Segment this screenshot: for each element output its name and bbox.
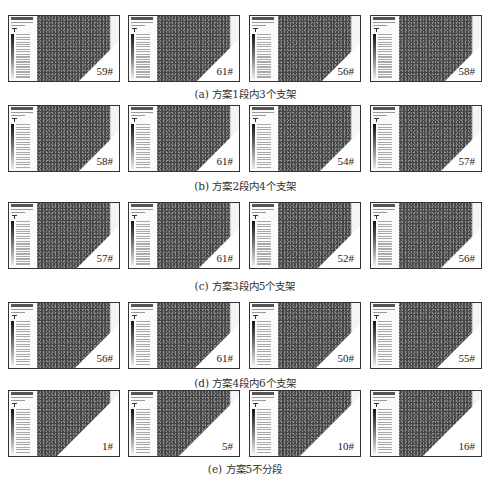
legend — [9, 303, 38, 368]
support-label: 56# — [97, 352, 114, 364]
panel-e-3: 10# — [249, 390, 361, 457]
legend — [129, 106, 158, 171]
support-label: 56# — [338, 65, 355, 77]
legend — [371, 303, 400, 368]
row-b: 58# 61# 54# 57# — [0, 105, 490, 173]
legend — [129, 391, 158, 456]
support-label: 57# — [459, 155, 476, 167]
caption-e: (e) 方案5不分段 — [0, 461, 490, 476]
legend — [371, 391, 400, 456]
figure: 59# 61# 56# 58# (a) 方案1段内3个支架 — [0, 0, 490, 482]
row-c: 57# 61# 52# 56# — [0, 202, 490, 270]
support-label: 58# — [459, 65, 476, 77]
support-label: 59# — [97, 65, 114, 77]
support-label: 52# — [338, 252, 355, 264]
support-label: 56# — [459, 252, 476, 264]
support-label: 61# — [217, 65, 234, 77]
support-label: 61# — [217, 155, 234, 167]
row-d: 56# 61# 50# 55# — [0, 302, 490, 370]
panel-b-3: 54# — [249, 105, 361, 172]
legend — [250, 16, 279, 81]
panel-d-3: 50# — [249, 302, 361, 369]
panel-a-2: 61# — [128, 15, 240, 82]
legend — [371, 16, 400, 81]
support-label: 58# — [97, 155, 114, 167]
support-label: 55# — [459, 352, 476, 364]
panel-c-2: 61# — [128, 202, 240, 269]
support-label: 61# — [217, 252, 234, 264]
support-label: 57# — [97, 252, 114, 264]
support-label: 54# — [338, 155, 355, 167]
panel-d-1: 56# — [8, 302, 120, 369]
panel-c-4: 56# — [370, 202, 482, 269]
legend — [9, 16, 38, 81]
legend — [9, 203, 38, 268]
panel-d-4: 55# — [370, 302, 482, 369]
panel-e-1: 1# — [8, 390, 120, 457]
panel-d-2: 61# — [128, 302, 240, 369]
panel-a-4: 58# — [370, 15, 482, 82]
legend — [129, 303, 158, 368]
panel-a-1: 59# — [8, 15, 120, 82]
support-label: 10# — [338, 440, 355, 452]
support-label: 16# — [459, 440, 476, 452]
legend — [371, 106, 400, 171]
panel-c-1: 57# — [8, 202, 120, 269]
support-label: 61# — [217, 352, 234, 364]
panel-a-3: 56# — [249, 15, 361, 82]
row-a: 59# 61# 56# 58# — [0, 15, 490, 83]
legend — [250, 391, 279, 456]
support-label: 50# — [338, 352, 355, 364]
panel-c-3: 52# — [249, 202, 361, 269]
legend — [9, 391, 38, 456]
legend — [371, 203, 400, 268]
caption-a: (a) 方案1段内3个支架 — [0, 86, 490, 101]
legend — [250, 303, 279, 368]
panel-b-2: 61# — [128, 105, 240, 172]
legend — [129, 16, 158, 81]
support-label: 5# — [222, 440, 233, 452]
row-e: 1# 5# 10# 16# — [0, 390, 490, 458]
caption-c: (c) 方案3段内5个支架 — [0, 278, 490, 293]
panel-b-1: 58# — [8, 105, 120, 172]
legend — [129, 203, 158, 268]
caption-d: (d) 方案4段内6个支架 — [0, 375, 490, 390]
legend — [250, 106, 279, 171]
panel-e-2: 5# — [128, 390, 240, 457]
legend — [250, 203, 279, 268]
panel-e-4: 16# — [370, 390, 482, 457]
support-label: 1# — [102, 440, 113, 452]
legend — [9, 106, 38, 171]
caption-b: (b) 方案2段内4个支架 — [0, 178, 490, 193]
panel-b-4: 57# — [370, 105, 482, 172]
